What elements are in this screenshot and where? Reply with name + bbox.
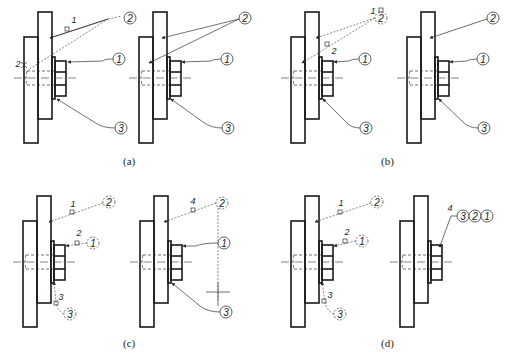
- figure-a: 2 1 3 1 2 2 1 3: [14, 12, 251, 143]
- figure-d: 2 1 1 2 3 3 4 3 2 1: [281, 196, 493, 327]
- figure-c: 2 1 1 2 3 3 2 4 1: [13, 196, 232, 327]
- figure-a-step2: 2 1 3: [129, 12, 251, 143]
- step-2-label: 2: [75, 228, 81, 238]
- figure-b-step2: 2 1 3: [397, 12, 499, 143]
- figure-d-step1: 2 1 1 2 3 3: [281, 196, 383, 327]
- balloon-3-label: 3: [363, 123, 369, 134]
- caption-a: (a): [123, 155, 135, 167]
- balloon-1-label: 1: [362, 54, 368, 65]
- step-2-label: 2: [330, 46, 336, 56]
- balloon-1-label: 1: [90, 238, 96, 249]
- step-1-label: 1: [70, 199, 75, 209]
- assembly-drawing-diagram: 2 1 3 1 2 2 1 3 2: [0, 0, 513, 357]
- balloon-2-label: 2: [105, 197, 112, 208]
- balloon-1-label: 1: [221, 238, 227, 249]
- figure-b: 2 1 2 1 3 2 1 3: [281, 6, 499, 143]
- balloon-3-label: 3: [67, 309, 73, 320]
- step-1-label: 1: [338, 198, 343, 208]
- step-4-label: 4: [190, 196, 195, 206]
- step-1-label: 1: [370, 6, 375, 16]
- balloon-2-label: 2: [373, 197, 380, 208]
- figure-c-step1: 2 1 1 2 3 3: [13, 196, 115, 327]
- balloon-3-label: 3: [481, 123, 487, 134]
- figure-d-step2: 4 3 2 1: [390, 196, 493, 327]
- balloon-1-label: 1: [484, 211, 490, 222]
- balloon-2-label: 2: [471, 211, 478, 222]
- balloon-3-label: 3: [225, 123, 231, 134]
- balloon-1-label: 1: [359, 236, 365, 247]
- step-3-label: 3: [327, 290, 332, 300]
- balloon-1-label: 1: [224, 54, 230, 65]
- balloon-2-label: 2: [377, 13, 384, 24]
- step-1-label: 1: [71, 15, 76, 25]
- step-4-label: 4: [447, 203, 452, 213]
- figure-c-step2: 2 4 1 3: [130, 196, 232, 327]
- step-3-label: 3: [58, 292, 63, 302]
- balloon-2-label: 2: [126, 13, 133, 24]
- caption-c: (c): [123, 337, 135, 349]
- balloon-3-label: 3: [223, 307, 229, 318]
- caption-b: (b): [381, 155, 394, 167]
- balloon-1-label: 1: [116, 54, 122, 65]
- step-2-label: 2: [343, 227, 349, 237]
- caption-d: (d): [381, 337, 394, 349]
- balloon-3-label: 3: [118, 123, 124, 134]
- balloon-1-label: 1: [480, 54, 486, 65]
- step-2-label: 2: [14, 59, 20, 69]
- figure-b-step1: 2 1 2 1 3: [281, 6, 387, 143]
- balloon-2-label: 2: [241, 13, 248, 24]
- balloon-2-label: 2: [489, 13, 496, 24]
- figure-a-step1: 2 1 3 1 2: [14, 12, 136, 143]
- balloon-3-label: 3: [460, 211, 466, 222]
- balloon-3-label: 3: [337, 309, 343, 320]
- balloon-2-label: 2: [218, 198, 225, 209]
